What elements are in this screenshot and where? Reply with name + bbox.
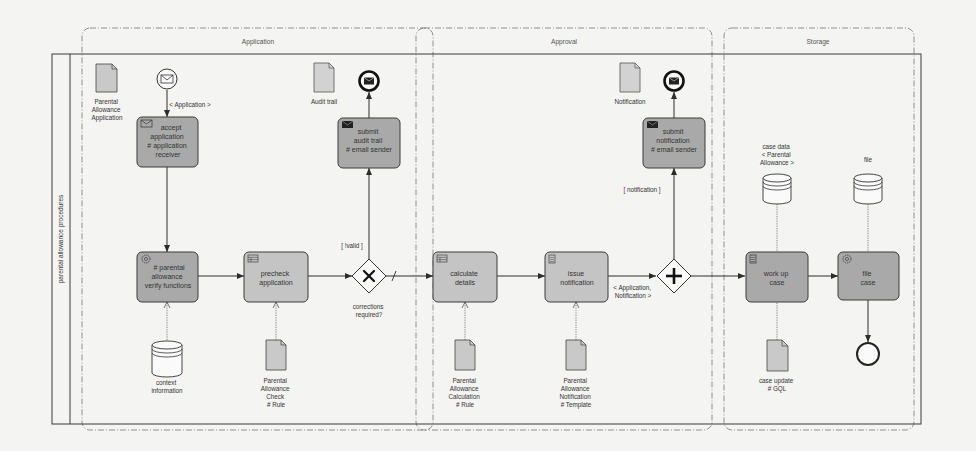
data-object-label: case update # GQL (759, 377, 795, 393)
data-object-pa-notification-template[interactable]: Parental Allowance Notification # Templa… (560, 340, 593, 409)
start-message-event[interactable]: < Application > (157, 69, 211, 109)
task-submit-audit-trail[interactable]: submit audit trail # email sender (338, 118, 400, 168)
group-application[interactable]: Application (82, 28, 433, 430)
sequence-flows (167, 90, 868, 342)
flow-label-notification: [ notification ] (623, 186, 660, 194)
envelope-filled-icon (647, 121, 658, 128)
bpmn-diagram: Application Approval Storage parental al… (0, 0, 976, 451)
group-label-storage: Storage (806, 38, 829, 46)
end-event-file[interactable] (857, 343, 879, 365)
group-label-application: Application (242, 38, 275, 46)
data-object-pa-check-rule[interactable]: Parental Allowance Check # Rule (261, 340, 291, 408)
start-event-label: < Application > (169, 101, 211, 109)
data-object-label: Audit trail (311, 98, 337, 105)
data-object-label: Parental Allowance Check # Rule (261, 377, 291, 408)
data-store-label: file (864, 156, 873, 163)
task-verify-functions[interactable]: # parental allowance verify functions (137, 252, 198, 302)
end-event-audit[interactable] (360, 72, 379, 91)
envelope-filled-icon (669, 78, 679, 85)
data-store-label: context information (151, 379, 183, 394)
gateway-label: corrections required? (353, 303, 386, 319)
data-store-case-data[interactable]: case data < Parental Allowance > (760, 143, 794, 204)
flow-label-invalid: [ !valid ] (341, 242, 363, 250)
data-object-label: Parental Allowance Calculation # Rule (449, 377, 482, 408)
gateway-parallel[interactable] (657, 259, 691, 293)
data-object-case-update[interactable]: case update # GQL (759, 340, 795, 393)
data-store-label: case data < Parental Allowance > (760, 143, 794, 166)
task-precheck-application[interactable]: precheck application (244, 252, 308, 302)
data-object-pa-calculation-rule[interactable]: Parental Allowance Calculation # Rule (449, 340, 482, 408)
envelope-filled-icon (342, 121, 353, 128)
task-label: precheck application (259, 270, 293, 287)
data-object-label: Notification (614, 98, 646, 105)
pool-label: parental allowance procedures (57, 194, 65, 283)
task-issue-notification[interactable]: issue notification (545, 252, 608, 302)
data-object-audit-trail[interactable]: Audit trail (311, 63, 337, 105)
data-object-notification[interactable]: Notification (614, 63, 646, 105)
task-calculate-details[interactable]: calculate details (433, 252, 497, 302)
task-accept-application[interactable]: accept application # application receive… (137, 117, 198, 167)
data-object-label: Parental Allowance Application (92, 98, 123, 122)
data-object-label: Parental Allowance Notification # Templa… (560, 377, 593, 409)
task-work-up-case[interactable]: work up case (746, 252, 808, 302)
gateway-exclusive-corrections[interactable]: corrections required? (352, 259, 386, 319)
task-file-case[interactable]: file case (838, 252, 899, 300)
data-store-file[interactable]: file (854, 156, 882, 204)
end-event-notification[interactable] (665, 72, 684, 91)
envelope-filled-icon (364, 78, 374, 85)
group-label-approval: Approval (551, 38, 578, 46)
data-object-parental-allowance-application[interactable]: Parental Allowance Application (92, 64, 123, 122)
data-store-context-information[interactable]: context information (151, 341, 183, 394)
group-storage[interactable]: Storage (724, 28, 914, 430)
flow-label-application-notification: < Application, Notification > (613, 284, 652, 299)
task-submit-notification[interactable]: submit notification # email sender (643, 118, 705, 168)
